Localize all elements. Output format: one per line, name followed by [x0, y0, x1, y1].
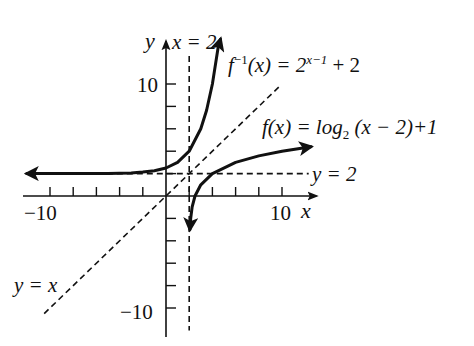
inverse-function-label: f−1(x) = 2x−1 + 2 — [228, 55, 360, 76]
y-tick-label-neg10: −10 — [120, 302, 153, 323]
function-label: f(x) = log2 (x − 2)+1 — [262, 117, 438, 138]
finv-superscript: −1 — [234, 52, 248, 67]
x-axis-label: x — [301, 200, 311, 222]
x-tick-label-neg10: −10 — [24, 203, 57, 224]
finv-body: (x) = 2 — [248, 53, 306, 77]
finv-tail: + 2 — [327, 53, 360, 77]
y-equals-x-label: y = x — [14, 275, 57, 296]
y-axis-label: y — [145, 30, 155, 52]
function-curve — [190, 147, 311, 230]
f-body: (x) = log — [268, 115, 343, 139]
finv-exponent: x−1 — [306, 52, 327, 67]
plot-series — [27, 39, 311, 330]
x-equals-2-label: x = 2 — [172, 32, 217, 53]
f-tail: (x − 2)+1 — [349, 115, 437, 139]
y-equals-2-label: y = 2 — [312, 164, 357, 185]
y-equals-x-line — [44, 86, 280, 313]
inverse-function-curve — [27, 39, 221, 173]
x-tick-label-10: 10 — [270, 203, 291, 224]
axes — [23, 41, 316, 337]
y-tick-label-10: 10 — [137, 75, 158, 96]
